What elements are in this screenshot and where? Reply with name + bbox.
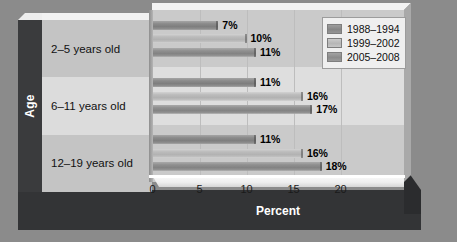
bar-value-label: 11% — [260, 135, 280, 144]
legend: 1988–1994 1999–2002 2005–2008 — [322, 17, 406, 69]
plot-area-top-bevel — [152, 3, 411, 10]
bar-value-label: 18% — [326, 162, 347, 171]
category-label-row: 6–11 years old — [42, 77, 152, 134]
bar-end-shade — [254, 135, 256, 144]
bar-end-shade — [310, 105, 312, 114]
y-axis-title: Age — [18, 20, 42, 192]
bar-end-shade — [254, 48, 256, 57]
bar-end-shade — [245, 34, 247, 43]
bar-value-label: 11% — [260, 78, 280, 87]
bar-value-label: 10% — [251, 34, 272, 43]
legend-item-label: 1988–1994 — [347, 23, 400, 35]
x-axis-tick-label: 20 — [334, 183, 346, 195]
category-label-row: 2–5 years old — [42, 20, 152, 77]
bar-end-shade — [254, 78, 256, 87]
legend-swatch-icon — [327, 52, 342, 62]
legend-swatch-icon — [327, 38, 342, 48]
bar-chart-figure: Age 2–5 years old6–11 years old12–19 yea… — [0, 0, 457, 242]
y-axis-title-text: Age — [23, 94, 37, 117]
x-axis-tick-label: 15 — [287, 183, 299, 195]
legend-swatch-icon — [327, 24, 342, 34]
bar-end-shade — [216, 21, 218, 30]
category-label-row: 12–19 years old — [42, 135, 152, 192]
category-label-column-top-bevel — [42, 13, 159, 20]
bar — [153, 48, 256, 57]
legend-item-label: 2005–2008 — [347, 51, 400, 63]
x-axis-title: Percent — [152, 204, 404, 218]
x-axis-tick-label: 10 — [240, 183, 252, 195]
bar-value-label: 16% — [307, 92, 328, 101]
y-axis-line — [149, 10, 153, 182]
bar — [153, 92, 303, 101]
bar-end-shade — [320, 162, 322, 171]
bar — [153, 149, 303, 158]
y-axis-panel-top-bevel — [18, 13, 42, 20]
bar — [153, 135, 256, 144]
bar — [153, 21, 219, 30]
bar-end-shade — [301, 92, 303, 101]
bar — [153, 34, 247, 43]
bar — [153, 162, 322, 171]
category-label-text: 2–5 years old — [51, 43, 120, 55]
bar-end-shade — [301, 149, 303, 158]
category-label-column: 2–5 years old6–11 years old12–19 years o… — [42, 20, 152, 192]
legend-item[interactable]: 1999–2002 — [327, 36, 401, 50]
legend-item-label: 1999–2002 — [347, 37, 400, 49]
bar-value-label: 16% — [307, 149, 328, 158]
category-label-text: 6–11 years old — [51, 100, 126, 112]
bar — [153, 105, 313, 114]
x-axis-tick-label: 5 — [196, 183, 202, 195]
category-label-text: 12–19 years old — [51, 157, 133, 169]
bar-value-label: 7% — [222, 21, 237, 30]
bar-value-label: 11% — [260, 48, 280, 57]
x-axis-tick-label: 0 — [149, 183, 155, 195]
bar — [153, 78, 256, 87]
legend-item[interactable]: 2005–2008 — [327, 50, 401, 64]
plot-floor-edge — [149, 175, 405, 178]
legend-item[interactable]: 1988–1994 — [327, 22, 401, 36]
bar-value-label: 17% — [316, 105, 337, 114]
chart-base-slab-side — [404, 190, 421, 214]
